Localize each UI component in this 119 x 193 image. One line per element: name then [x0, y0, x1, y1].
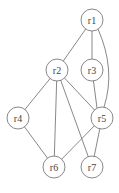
node-label: r4 — [14, 113, 22, 124]
graph-diagram: r1 r2 r3 r4 r5 r6 r7 — [0, 0, 119, 193]
node-label: r1 — [88, 15, 96, 26]
node-r4: r4 — [7, 107, 29, 129]
node-label: r3 — [88, 65, 96, 76]
node-label: r2 — [53, 65, 61, 76]
edge-r2-r7 — [57, 70, 92, 167]
node-label: r7 — [88, 162, 96, 173]
edge-r2-r6 — [54, 70, 57, 167]
nodes: r1 r2 r3 r4 r5 r6 r7 — [7, 9, 113, 178]
node-r6: r6 — [43, 156, 65, 178]
node-label: r5 — [98, 113, 106, 124]
node-r3: r3 — [81, 59, 103, 81]
node-r5: r5 — [91, 107, 113, 129]
node-r7: r7 — [81, 156, 103, 178]
node-r2: r2 — [46, 59, 68, 81]
node-label: r6 — [50, 162, 58, 173]
edges — [18, 20, 109, 167]
node-r1: r1 — [81, 9, 103, 31]
